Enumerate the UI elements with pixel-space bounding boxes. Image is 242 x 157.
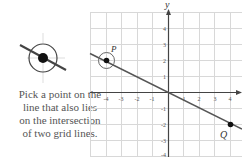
axes — [90, 10, 240, 157]
svg-text:3: 3 — [214, 96, 217, 102]
svg-text:3: 3 — [163, 42, 166, 48]
svg-text:-2: -2 — [135, 96, 140, 102]
svg-text:-1: -1 — [150, 96, 155, 102]
point-q-label: Q — [220, 129, 228, 140]
svg-text:-4: -4 — [104, 96, 109, 102]
svg-text:-2: -2 — [161, 122, 166, 128]
svg-text:-3: -3 — [119, 96, 124, 102]
svg-text:4: 4 — [163, 26, 166, 32]
point-p-label: P — [110, 44, 117, 54]
x-axis-arrow-icon — [236, 90, 242, 95]
svg-text:-4: -4 — [161, 152, 166, 157]
svg-text:-1: -1 — [161, 106, 166, 112]
svg-text:-3: -3 — [161, 138, 166, 144]
point-p[interactable] — [104, 58, 110, 64]
y-axis-label: y — [164, 0, 170, 10]
coordinate-graph[interactable]: y -4 -3 -2 -1 1 2 3 4 4 3 2 1 -1 -2 -3 -… — [0, 0, 242, 157]
x-tick-labels: -4 -3 -2 -1 1 2 3 4 — [104, 96, 232, 102]
point-q[interactable] — [228, 122, 234, 128]
svg-text:4: 4 — [229, 96, 232, 102]
svg-text:2: 2 — [198, 96, 201, 102]
svg-text:1: 1 — [163, 74, 166, 80]
svg-text:2: 2 — [163, 58, 166, 64]
